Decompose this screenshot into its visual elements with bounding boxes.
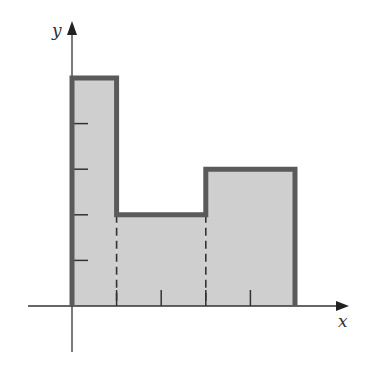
shaded-region <box>72 78 295 306</box>
step-bar <box>72 78 117 306</box>
step-function-diagram: x y <box>0 0 366 369</box>
x-axis-arrow-icon <box>336 301 349 311</box>
step-bar <box>206 169 295 306</box>
x-axis-label: x <box>338 311 348 331</box>
y-axis-label: y <box>51 20 62 40</box>
y-axis-arrow-icon <box>67 21 77 35</box>
